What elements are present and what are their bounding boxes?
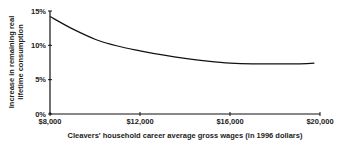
y-tick-label: 10% [31, 41, 46, 50]
svg-text:lifetime consumption: lifetime consumption [16, 24, 25, 100]
svg-text:Increase in remaining real: Increase in remaining real [7, 16, 16, 109]
x-tick-label: $8,000 [39, 117, 62, 126]
line-chart: 0%5%10%15% $8,000$12,000$16,000$20,000 C… [0, 0, 339, 146]
y-tick-label: 15% [31, 7, 46, 16]
x-tick-label: $20,000 [306, 117, 333, 126]
y-tick-label: 5% [35, 75, 46, 84]
x-tick-label: $16,000 [216, 117, 243, 126]
consumption-increase-line [50, 17, 314, 64]
x-axis-label: Cleavers' household career average gross… [68, 131, 303, 140]
y-axis-ticks: 0%5%10%15% [31, 7, 52, 119]
y-axis-label: Increase in remaining real lifetime cons… [7, 16, 25, 109]
x-tick-label: $12,000 [126, 117, 153, 126]
